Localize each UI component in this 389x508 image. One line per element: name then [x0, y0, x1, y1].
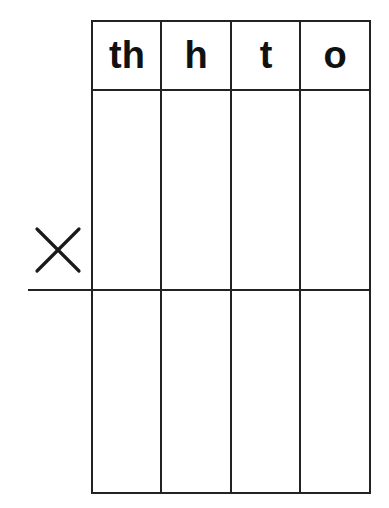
column-header-thousands: th: [92, 20, 162, 90]
grid-border-right: [369, 20, 371, 494]
cell-answer-ones[interactable]: [301, 291, 369, 492]
cell-answer-thousands[interactable]: [93, 291, 161, 492]
column-header-tens: t: [231, 20, 301, 90]
cell-row1-hundreds[interactable]: [162, 91, 230, 289]
cell-answer-tens[interactable]: [232, 291, 300, 492]
column-header-hundreds: h: [161, 20, 231, 90]
cell-row1-thousands[interactable]: [93, 91, 161, 289]
cell-answer-hundreds[interactable]: [162, 291, 230, 492]
cell-row1-ones[interactable]: [301, 91, 369, 289]
column-header-ones: o: [300, 20, 370, 90]
multiply-icon: [34, 226, 82, 274]
grid-border-bottom: [91, 492, 371, 494]
cell-row1-tens[interactable]: [232, 91, 300, 289]
